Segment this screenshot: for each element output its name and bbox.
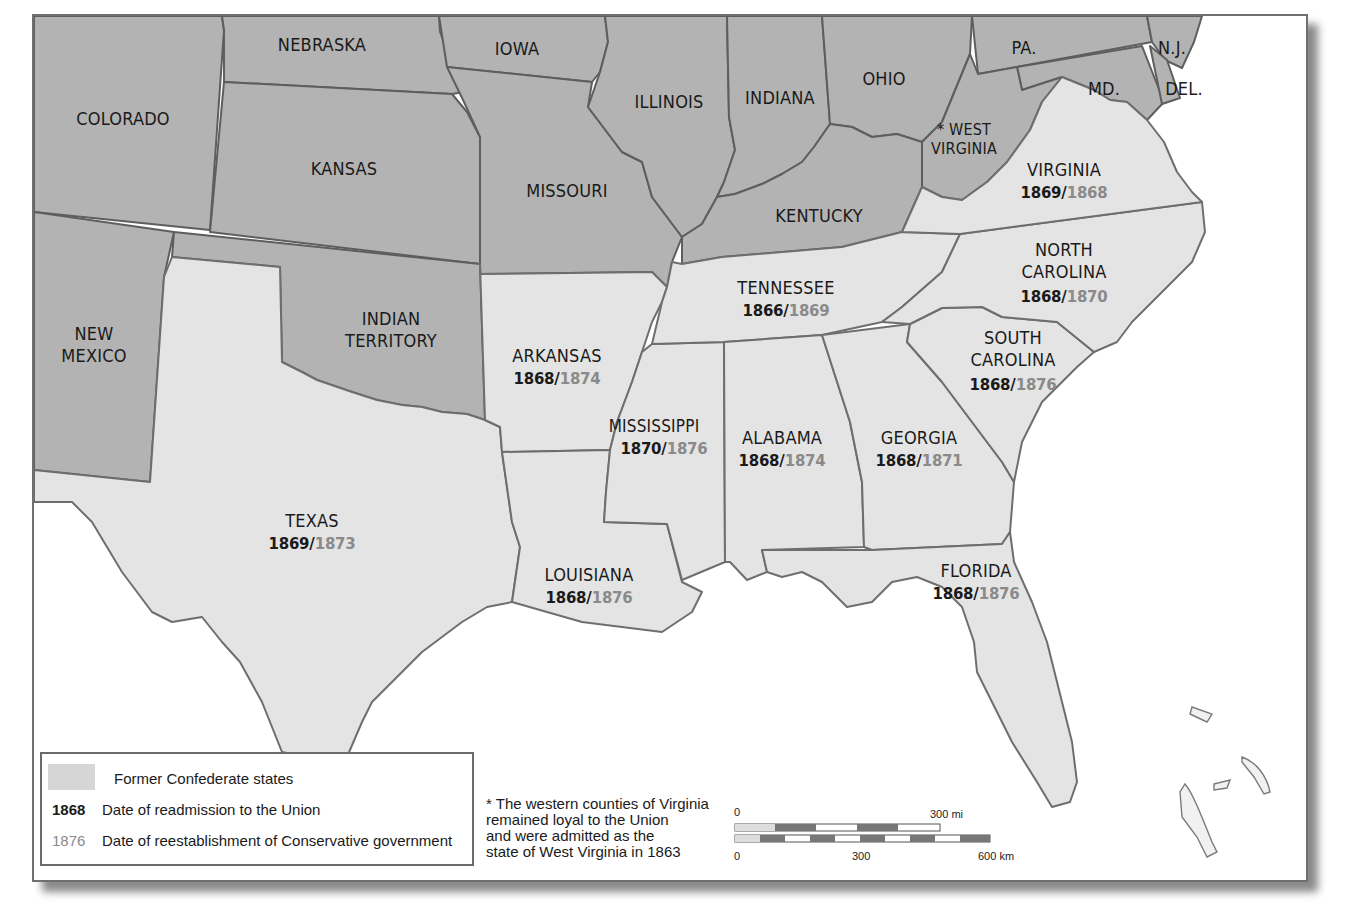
label-new-mexico: NEW MEXICO: [61, 323, 126, 367]
label-missouri: MISSOURI: [526, 180, 608, 202]
label-arkansas: ARKANSAS: [512, 345, 601, 367]
label-florida: FLORIDA: [940, 560, 1011, 582]
label-ohio: OHIO: [862, 68, 905, 90]
label-alabama: ALABAMA: [742, 427, 822, 449]
label-west-virginia: * WEST VIRGINIA: [931, 120, 997, 158]
label-texas: TEXAS: [285, 510, 339, 532]
map-legend: Former Confederate states 1868Date of re…: [40, 752, 474, 866]
scale-bar-graphic: [734, 822, 996, 846]
island-bahamas-abaco: [1190, 707, 1212, 722]
label-indiana: INDIANA: [745, 87, 815, 109]
label-indian-territory: INDIAN TERRITORY: [345, 308, 437, 352]
label-illinois: ILLINOIS: [634, 91, 703, 113]
scale-miles-end: 300 mi: [930, 808, 963, 820]
label-colorado: COLORADO: [76, 108, 170, 130]
dates-south-carolina: 1868/1876: [969, 376, 1056, 394]
dates-texas: 1869/1873: [268, 535, 355, 553]
island-bahamas-small: [1214, 780, 1230, 790]
label-delaware: DEL.: [1165, 78, 1203, 100]
dates-tennessee: 1866/1869: [742, 302, 829, 320]
label-louisiana: LOUISIANA: [545, 564, 634, 586]
dates-louisiana: 1868/1876: [545, 589, 632, 607]
scale-km-mid: 300: [852, 850, 870, 862]
legend-item-confederate: Former Confederate states: [114, 770, 293, 792]
label-south-carolina: SOUTH CAROLINA: [971, 327, 1056, 371]
label-pennsylvania: PA.: [1011, 37, 1036, 59]
dates-florida: 1868/1876: [932, 585, 1019, 603]
scale-bar: 0 300 mi 0 300 600 km: [734, 806, 1024, 870]
dates-north-carolina: 1868/1870: [1020, 288, 1107, 306]
label-virginia: VIRGINIA: [1027, 159, 1101, 181]
dates-mississippi: 1870/1876: [620, 440, 707, 458]
label-kentucky: KENTUCKY: [775, 205, 862, 227]
label-north-carolina: NORTH CAROLINA: [1022, 239, 1107, 283]
label-nebraska: NEBRASKA: [278, 34, 366, 56]
island-bahamas-andros: [1180, 784, 1217, 857]
label-tennessee: TENNESSEE: [737, 277, 834, 299]
legend-swatch-confederate: [48, 764, 95, 790]
legend-item-readmission: 1868Date of readmission to the Union: [52, 801, 320, 823]
dates-alabama: 1868/1874: [738, 452, 825, 470]
dates-virginia: 1869/1868: [1020, 184, 1107, 202]
scale-km-start: 0: [734, 850, 740, 862]
dates-arkansas: 1868/1874: [513, 370, 600, 388]
dates-georgia: 1868/1871: [875, 452, 962, 470]
scale-miles-start: 0: [734, 806, 740, 818]
state-florida: [762, 532, 1077, 807]
label-new-jersey: N.J.: [1158, 37, 1186, 59]
scale-km-end: 600 km: [978, 850, 1014, 862]
island-bahamas-eleuthera: [1242, 757, 1270, 794]
label-kansas: KANSAS: [311, 158, 378, 180]
legend-item-conservative: 1876Date of reestablishment of Conservat…: [52, 832, 452, 854]
label-maryland: MD.: [1088, 78, 1120, 100]
label-mississippi: MISSISSIPPI: [609, 415, 700, 437]
footnote-west-virginia: * The western counties of Virginia remai…: [486, 796, 709, 860]
map-frame: COLORADO NEBRASKA KANSAS IOWA MISSOURI I…: [32, 14, 1308, 882]
label-iowa: IOWA: [495, 38, 539, 60]
label-georgia: GEORGIA: [881, 427, 958, 449]
